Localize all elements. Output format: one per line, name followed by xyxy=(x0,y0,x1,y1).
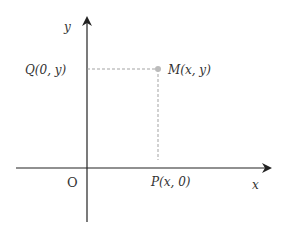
coordinate-diagram: y x O Q(0, y) M(x, y) P(x, 0) xyxy=(0,0,290,237)
point-q-label: Q(0, y) xyxy=(25,63,67,77)
x-axis-label: x xyxy=(252,178,259,192)
y-axis-label: y xyxy=(63,20,71,34)
origin-label: O xyxy=(67,175,78,190)
point-m-label: M(x, y) xyxy=(167,63,211,77)
point-p-label: P(x, 0) xyxy=(150,175,191,189)
point-m xyxy=(155,66,161,72)
